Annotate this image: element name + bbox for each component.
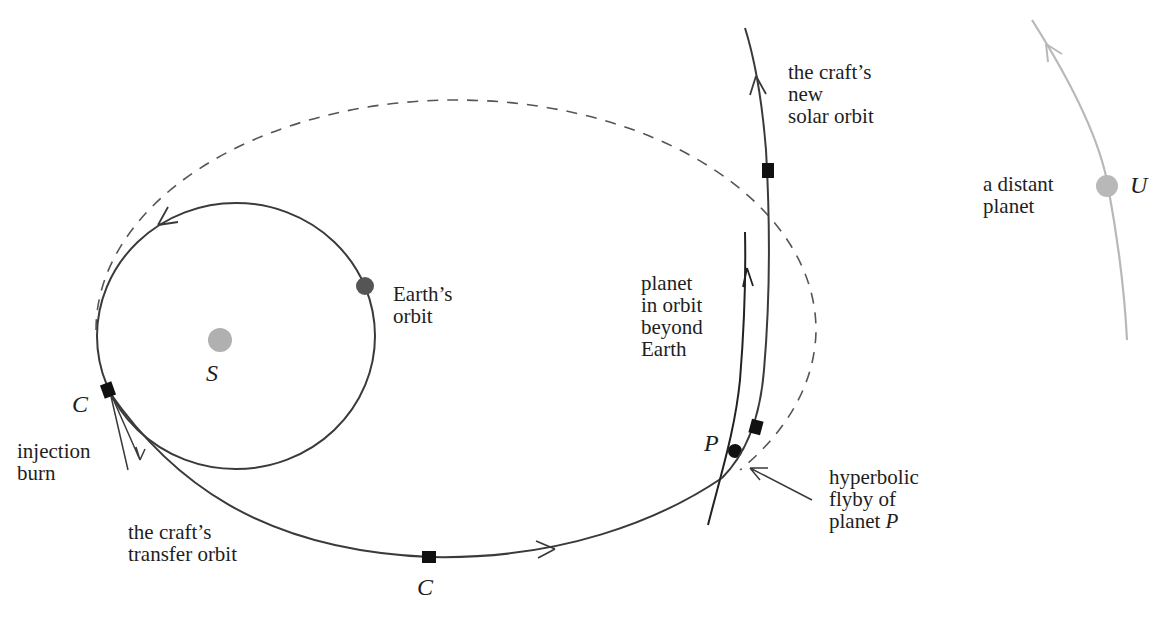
planet-orbit-label: planet in orbit beyond Earth (641, 272, 703, 360)
flyby-pointer-arrow-icon (750, 468, 812, 500)
flyby-planet-symbol: P (886, 509, 899, 533)
craft-mid-icon (422, 551, 436, 563)
injection-burn-label: injection burn (17, 440, 90, 484)
planet-p-label: P (704, 432, 719, 454)
distant-planet-label: a distant planet (983, 173, 1054, 217)
distant-planet-symbol: U (1130, 174, 1147, 196)
earth-orbit-label: Earth’s orbit (393, 283, 452, 327)
flyby-label-text: hyperbolic flyby of planet (829, 465, 919, 533)
craft-mid-label: C (417, 576, 433, 598)
transfer-orbit-label: the craft’s transfer orbit (128, 521, 237, 565)
transfer-ellipse-dashed (96, 100, 816, 470)
craft-start-icon (100, 381, 116, 398)
gravity-assist-diagram: S Earth’s orbit C injection burn the cra… (0, 0, 1170, 622)
new-solar-orbit-label: the craft’s new solar orbit (788, 61, 874, 127)
sun-label: S (206, 362, 218, 384)
flyby-label: hyperbolic flyby of planet P (829, 466, 919, 532)
planet-orbit (708, 232, 745, 525)
craft-new-orbit-icon (762, 163, 774, 178)
sun-icon (208, 328, 232, 352)
distant-planet-icon (1096, 175, 1118, 197)
earth-icon (356, 277, 374, 295)
craft-start-label: C (72, 393, 88, 415)
craft-flyby-icon (748, 419, 763, 436)
